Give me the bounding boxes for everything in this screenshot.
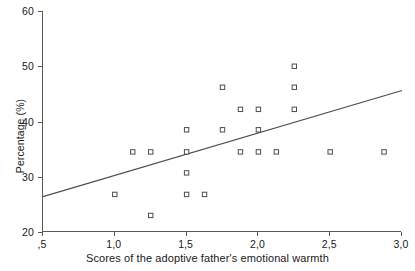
data-point [292,64,296,68]
y-tick-label: 40 [6,116,34,128]
x-tick-label: 1,0 [106,238,121,250]
x-tick-mark [114,232,115,236]
data-point [184,171,188,175]
x-tick-label: 2,5 [322,238,337,250]
x-tick-label: 2,0 [250,238,265,250]
data-point [131,150,135,154]
regression-trendline [43,91,402,197]
data-point [220,85,224,89]
data-point [256,128,260,132]
x-axis-title: Scores of the adoptive father's emotiona… [0,252,415,264]
x-tick-mark [186,232,187,236]
data-point [202,192,206,196]
data-point [292,107,296,111]
data-point [184,150,188,154]
y-tick-label: 20 [6,226,34,238]
data-point [113,192,117,196]
y-tick-label: 50 [6,60,34,72]
plot-canvas [43,11,402,232]
y-tick-label: 30 [6,171,34,183]
data-point [292,85,296,89]
data-points-group [113,64,387,218]
scatter-plot-figure: Percentage (%) 2030405060 ,51,01,52,02,5… [0,0,415,271]
y-tick-label: 60 [6,5,34,17]
data-point [256,150,260,154]
plot-area [42,11,401,232]
data-point [184,192,188,196]
data-point [149,150,153,154]
data-point [149,213,153,217]
x-tick-label: 3,0 [394,238,409,250]
data-point [328,150,332,154]
x-tick-mark [401,232,402,236]
data-point [184,128,188,132]
x-tick-mark [329,232,330,236]
x-tick-label: ,5 [38,238,47,250]
data-point [220,128,224,132]
data-point [382,150,386,154]
x-tick-label: 1,5 [178,238,193,250]
data-point [238,150,242,154]
y-axis-title: Percentage (%) [14,61,26,211]
data-point [256,107,260,111]
x-tick-mark [257,232,258,236]
data-point [238,107,242,111]
x-tick-mark [42,232,43,236]
data-point [274,150,278,154]
